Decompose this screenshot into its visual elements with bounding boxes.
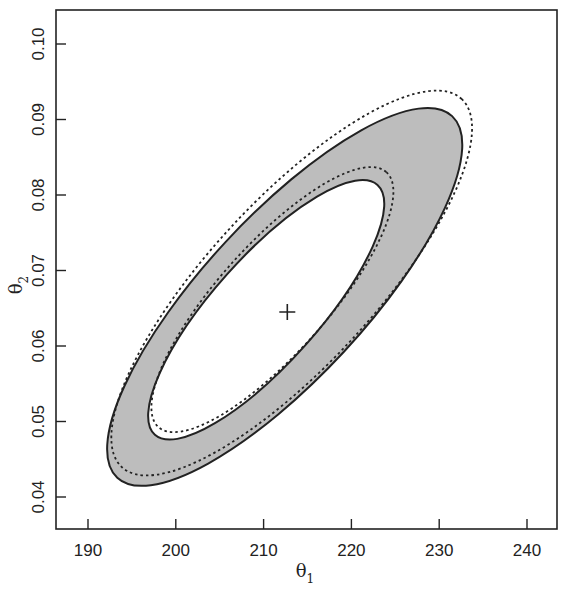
y-tick-label: 0.04 [29,480,48,513]
contour-chart: 190200210220230240 0.040.050.060.070.080… [0,0,567,595]
x-axis-label: θ1 [296,560,314,586]
x-tick-label: 230 [425,541,453,560]
x-tick-label: 220 [337,541,365,560]
y-tick-label: 0.09 [29,103,48,136]
y-axis-label: θ2 [5,276,31,294]
y-tick-label: 0.07 [29,254,48,287]
x-tick-label: 200 [162,541,190,560]
svg-text:θ2: θ2 [5,276,31,294]
x-tick-label: 240 [513,541,541,560]
y-tick-label: 0.08 [29,178,48,211]
x-tick-label: 210 [249,541,277,560]
x-tick-label: 190 [74,541,102,560]
plot-regions [58,43,522,533]
y-tick-label: 0.05 [29,405,48,438]
y-tick-label: 0.06 [29,329,48,362]
y-tick-label: 0.10 [29,27,48,60]
y-axis: 0.040.050.060.070.080.090.10 [29,27,66,513]
x-axis: 190200210220230240 [74,519,541,560]
